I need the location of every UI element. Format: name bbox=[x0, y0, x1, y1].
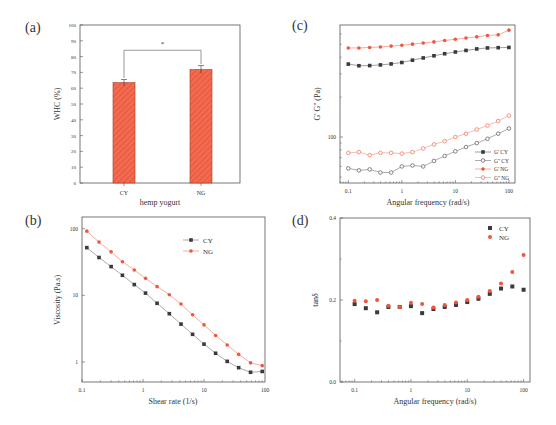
legend-label: G'' CY bbox=[494, 158, 509, 164]
marker-open-circle bbox=[379, 171, 383, 175]
marker-dot bbox=[202, 323, 206, 327]
marker-open-circle bbox=[496, 119, 500, 123]
marker-square bbox=[97, 256, 101, 260]
marker-open-circle bbox=[346, 151, 350, 155]
panel-a-label: (a) bbox=[25, 20, 41, 36]
x-tick-label: 100 bbox=[505, 188, 514, 194]
panel-d-ylabel: tanδ bbox=[311, 293, 320, 307]
marker-open-circle bbox=[496, 132, 500, 136]
x-tick-label: 10 bbox=[453, 188, 459, 194]
significance-bracket bbox=[124, 50, 201, 78]
marker-square bbox=[510, 284, 514, 288]
legend-label: NG bbox=[499, 234, 509, 242]
panel-d-label: (d) bbox=[292, 213, 309, 229]
marker-square bbox=[260, 370, 264, 374]
marker-square bbox=[225, 360, 229, 364]
series-line bbox=[348, 128, 509, 172]
x-tick-label: 10 bbox=[201, 387, 207, 393]
marker-square bbox=[189, 238, 193, 242]
marker-open-circle bbox=[346, 167, 350, 171]
marker-dot bbox=[364, 299, 368, 303]
marker-square bbox=[109, 265, 113, 269]
marker-dot bbox=[507, 28, 511, 32]
panel-d-xlabel: Angular frequency (rad/s) bbox=[393, 397, 476, 406]
series-line bbox=[348, 116, 509, 156]
marker-dot bbox=[346, 46, 350, 50]
marker-dot bbox=[144, 277, 148, 281]
x-tick-label: 10 bbox=[465, 387, 471, 393]
marker-open-circle bbox=[421, 147, 425, 151]
x-tick-label: 0.1 bbox=[345, 188, 352, 194]
y-tick-label: 80 bbox=[71, 55, 77, 60]
marker-square bbox=[168, 312, 172, 316]
plot-frame bbox=[82, 217, 265, 382]
marker-open-circle bbox=[475, 128, 479, 132]
marker-dot bbox=[499, 282, 503, 286]
marker-open-circle bbox=[357, 150, 361, 154]
marker-square bbox=[421, 56, 425, 60]
marker-dot bbox=[375, 298, 379, 302]
marker-open-circle bbox=[454, 150, 458, 154]
panel-a-ylabel: WHC (%) bbox=[53, 87, 62, 120]
marker-dot bbox=[237, 353, 241, 357]
series-line-ng bbox=[87, 231, 262, 366]
marker-open-circle bbox=[400, 152, 404, 156]
marker-square bbox=[475, 47, 479, 51]
panel-c-ylabel: G' G'' (Pa) bbox=[313, 87, 322, 121]
marker-square bbox=[191, 333, 195, 337]
marker-open-circle bbox=[389, 151, 393, 155]
legend-label: G'' NG bbox=[494, 175, 509, 181]
marker-square bbox=[481, 150, 485, 154]
marker-open-circle bbox=[454, 135, 458, 139]
marker-open-circle bbox=[481, 159, 485, 163]
marker-open-circle bbox=[432, 159, 436, 163]
plot-frame bbox=[80, 25, 240, 183]
marker-square bbox=[496, 46, 500, 50]
marker-square bbox=[443, 52, 447, 56]
panel-c-label: (c) bbox=[292, 18, 308, 34]
x-tick-label: 1 bbox=[410, 387, 413, 393]
y-tick-label: 100 bbox=[69, 23, 77, 28]
marker-dot bbox=[353, 299, 357, 303]
marker-square bbox=[375, 310, 379, 314]
marker-dot bbox=[179, 302, 183, 306]
marker-dot bbox=[488, 289, 492, 293]
marker-dot bbox=[189, 249, 193, 253]
marker-square bbox=[85, 246, 89, 250]
marker-dot bbox=[191, 313, 195, 317]
marker-square bbox=[400, 61, 404, 65]
marker-dot bbox=[411, 42, 415, 46]
marker-dot bbox=[496, 33, 500, 37]
marker-square bbox=[464, 49, 468, 53]
marker-dot bbox=[400, 43, 404, 47]
marker-open-circle bbox=[486, 137, 490, 141]
marker-dot bbox=[486, 34, 490, 38]
y-tick-label: 10 bbox=[71, 165, 77, 170]
y-tick-label: 20 bbox=[71, 149, 77, 154]
marker-square bbox=[237, 366, 241, 370]
y-tick-label: 0.4 bbox=[329, 215, 336, 221]
y-tick-label: 100 bbox=[328, 134, 337, 140]
legend-label: G' NG bbox=[494, 166, 508, 172]
marker-dot bbox=[398, 305, 402, 309]
marker-dot bbox=[214, 334, 218, 338]
marker-dot bbox=[379, 45, 383, 49]
marker-open-circle bbox=[411, 164, 415, 168]
marker-square bbox=[389, 62, 393, 66]
y-tick-label: 10 bbox=[73, 292, 79, 298]
x-tick-label: CY bbox=[120, 190, 129, 196]
bar-cy bbox=[113, 83, 135, 183]
y-tick-label: 50 bbox=[71, 102, 77, 107]
panel-b-ylabel: Viscosity (Pa.s) bbox=[53, 275, 62, 326]
marker-open-circle bbox=[443, 139, 447, 143]
x-tick-label: 100 bbox=[261, 387, 270, 393]
x-tick-label: 1 bbox=[142, 387, 145, 393]
plot-frame bbox=[340, 218, 530, 382]
marker-square bbox=[488, 226, 492, 230]
marker-square bbox=[368, 64, 372, 68]
marker-dot bbox=[476, 295, 480, 299]
x-tick-label: 1 bbox=[400, 188, 403, 194]
marker-dot bbox=[431, 305, 435, 309]
marker-dot bbox=[168, 293, 172, 297]
x-tick-label: 0.1 bbox=[351, 387, 358, 393]
